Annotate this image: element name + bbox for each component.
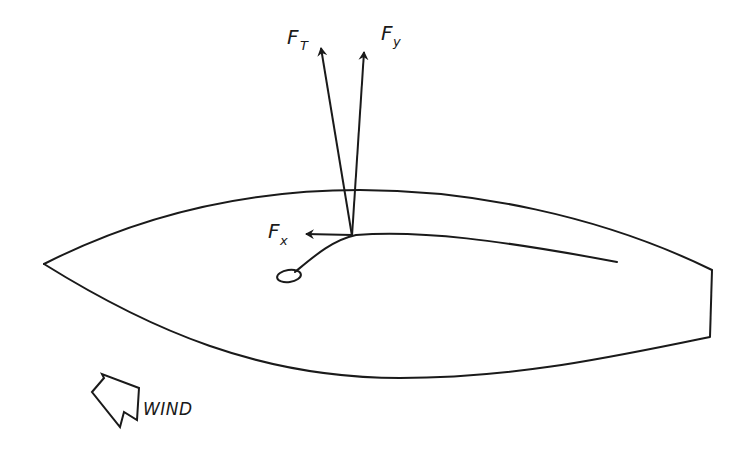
svg-text:F: F — [287, 25, 299, 49]
mast-base — [276, 268, 301, 283]
svg-text:F: F — [381, 21, 393, 45]
sail-boom-curve — [295, 234, 617, 272]
force-fx-arrow — [306, 234, 352, 235]
force-vectors — [306, 48, 364, 236]
svg-text:F: F — [268, 219, 280, 243]
label-fy: F y — [381, 21, 401, 49]
svg-text:y: y — [392, 34, 401, 49]
label-ft: F T — [287, 25, 309, 53]
wind-label: WIND — [143, 399, 193, 419]
force-fy-arrow — [352, 52, 364, 236]
hull-outline — [44, 190, 712, 378]
svg-text:T: T — [300, 38, 309, 53]
force-ft-arrow — [321, 48, 352, 236]
transom — [710, 270, 712, 337]
wind-arrow-icon — [92, 374, 139, 427]
sailboat-diagram: F T F y F x WIND — [0, 0, 753, 451]
svg-text:x: x — [279, 233, 288, 248]
label-fx: F x — [268, 219, 288, 248]
